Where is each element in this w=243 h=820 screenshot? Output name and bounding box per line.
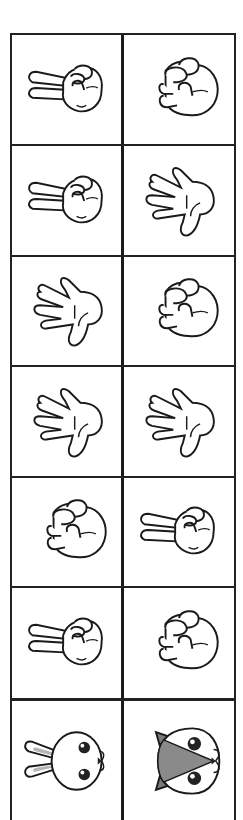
- scissors-hand-icon: [19, 153, 115, 249]
- grid-cell: scissors: [123, 478, 234, 586]
- grid-cell: cat: [123, 701, 234, 820]
- paper-hand-icon: [19, 374, 115, 470]
- scissors-hand-icon: [19, 595, 115, 691]
- rock-fist-icon: [131, 595, 227, 691]
- scissors-hand-icon: [19, 42, 115, 138]
- grid-cell: rock: [123, 35, 234, 144]
- grid-row: rabbit cat: [12, 698, 234, 820]
- grid-cell: scissors: [12, 35, 123, 144]
- rabbit-face-icon: [19, 713, 115, 809]
- grid-cell: rock: [12, 478, 123, 586]
- rock-fist-icon: [19, 484, 115, 580]
- grid-cell: paper: [123, 146, 234, 255]
- grid-cell: rock: [123, 257, 234, 365]
- grid-row: rock scissors: [12, 476, 234, 586]
- rock-fist-icon: [131, 42, 227, 138]
- grid-row: scissors rock: [12, 586, 234, 698]
- grid-row: scissors rock: [12, 33, 234, 144]
- grid-cell: rock: [123, 588, 234, 698]
- grid-row: scissors paper: [12, 144, 234, 255]
- paper-hand-icon: [131, 374, 227, 470]
- grid-cell: paper: [123, 367, 234, 476]
- grid-cell: scissors: [12, 146, 123, 255]
- grid-row: paper rock: [12, 255, 234, 365]
- grid-cell: paper: [12, 367, 123, 476]
- rock-fist-icon: [131, 263, 227, 359]
- grid-cell: scissors: [12, 588, 123, 698]
- paper-hand-icon: [131, 153, 227, 249]
- grid-cell: rabbit: [12, 701, 123, 820]
- worksheet-grid: Rock Paper Scissors scissors rock scisso…: [10, 33, 236, 820]
- paper-hand-icon: [19, 263, 115, 359]
- scissors-hand-icon: [131, 484, 227, 580]
- cat-face-icon: [131, 713, 227, 809]
- grid-cell: paper: [12, 257, 123, 365]
- grid-row: paper paper: [12, 365, 234, 476]
